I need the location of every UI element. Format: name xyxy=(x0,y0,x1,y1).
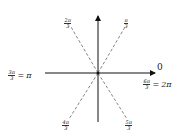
label-2pi-over-3: 2π3 xyxy=(64,15,71,31)
label-4pi-over-3: 4π3 xyxy=(62,117,69,133)
label-pi-over-3: π3 xyxy=(124,15,128,31)
label-3pi-over-3-equals-pi: 3π3=π xyxy=(8,67,31,83)
ray-2pi-over-3 xyxy=(71,27,98,73)
ray-pi-over-3 xyxy=(98,27,125,73)
label-5pi-over-3: 5π3 xyxy=(125,117,132,133)
ray-4pi-over-3 xyxy=(69,73,98,119)
origin-point xyxy=(97,72,100,75)
ray-5pi-over-3 xyxy=(98,73,127,119)
label-6pi-over-3-equals-2pi: 6π3=2π xyxy=(143,76,172,92)
label-zero: 0 xyxy=(157,63,163,72)
